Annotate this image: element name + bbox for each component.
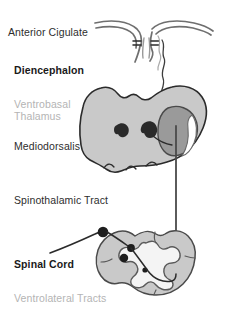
label-spinothalamic-tract: Spinothalamic Tract	[14, 194, 108, 206]
cingulate-sulcus	[143, 38, 150, 58]
label-ventrobasal-line1: Ventrobasal	[14, 98, 71, 110]
label-ventrobasal-thalamus: VentrobasalThalamus	[14, 98, 71, 123]
label-diencephalon: Diencephalon	[14, 64, 84, 76]
label-ventrobasal-line2: Thalamus	[14, 110, 61, 122]
label-ventrolateral-tracts: Ventrolateral Tracts	[14, 292, 106, 304]
label-spinal-cord: Spinal Cord	[14, 258, 74, 270]
relay-neuron-dot-2	[120, 254, 128, 262]
label-anterior-cingulate: Anterior Cigulate	[8, 26, 88, 38]
neuroanatomy-figure: Anterior Cigulate Diencephalon Ventrobas…	[0, 0, 227, 315]
label-mediodorsalis: Mediodorsalis	[14, 140, 80, 152]
